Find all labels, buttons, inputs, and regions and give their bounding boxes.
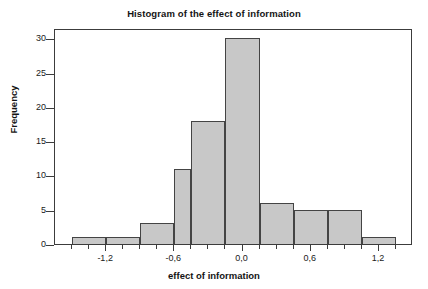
y-axis-tick-mark <box>46 74 54 75</box>
y-axis-tick-mark <box>46 211 54 212</box>
histogram-bar <box>362 237 396 244</box>
x-axis-title: effect of information <box>0 270 428 281</box>
y-axis-tick-label: 20 <box>20 102 46 112</box>
y-axis-tick-label: 30 <box>20 33 46 43</box>
x-axis-tick-mark <box>310 245 311 251</box>
x-axis-tick-label: 1,2 <box>358 253 398 263</box>
x-axis-tick-label: -0,6 <box>153 253 193 263</box>
y-axis-tick-mark <box>46 39 54 40</box>
y-axis-tick-label: 25 <box>20 68 46 78</box>
histogram-bar <box>294 210 328 244</box>
x-axis-minor-tick-mark <box>71 245 72 249</box>
y-axis-tick-mark <box>46 176 54 177</box>
x-axis-tick-label: -1,2 <box>85 253 125 263</box>
x-axis-minor-tick-mark <box>276 245 277 249</box>
histogram-bar <box>191 121 225 244</box>
y-axis-title: Frequency <box>8 62 19 158</box>
x-axis-minor-tick-mark <box>207 245 208 249</box>
y-axis-tick-label: 0 <box>20 239 46 249</box>
x-axis-tick-mark <box>378 245 379 251</box>
x-axis-minor-tick-mark <box>344 245 345 249</box>
histogram-bar <box>174 169 191 244</box>
y-axis-tick-mark <box>46 142 54 143</box>
x-axis-minor-tick-mark <box>88 245 89 249</box>
x-axis-tick-mark <box>105 245 106 251</box>
y-axis-tick-mark <box>46 245 54 246</box>
x-axis-minor-tick-mark <box>156 245 157 249</box>
y-axis-tick-mark <box>46 108 54 109</box>
y-axis-tick-label: 5 <box>20 205 46 215</box>
chart-title: Histogram of the effect of information <box>0 8 428 19</box>
x-axis-minor-tick-mark <box>224 245 225 249</box>
bars-layer <box>55 30 411 244</box>
x-axis-tick-label: 0,0 <box>222 253 262 263</box>
y-axis-tick-label: 15 <box>20 136 46 146</box>
x-axis-minor-tick-mark <box>122 245 123 249</box>
x-axis-tick-mark <box>173 245 174 251</box>
histogram-bar <box>72 237 106 244</box>
x-axis-minor-tick-mark <box>259 245 260 249</box>
x-axis-tick-mark <box>242 245 243 251</box>
histogram-bar <box>225 38 259 244</box>
y-axis-tick-label: 10 <box>20 170 46 180</box>
histogram-bar <box>106 237 140 244</box>
x-axis-tick-label: 0,6 <box>290 253 330 263</box>
plot-area <box>54 29 412 245</box>
x-axis-minor-tick-mark <box>395 245 396 249</box>
histogram-bar <box>328 210 362 244</box>
histogram-bar <box>140 223 174 244</box>
histogram-bar <box>260 203 294 244</box>
x-axis-minor-tick-mark <box>327 245 328 249</box>
histogram-chart: Histogram of the effect of information F… <box>0 0 428 289</box>
x-axis-minor-tick-mark <box>190 245 191 249</box>
x-axis-minor-tick-mark <box>293 245 294 249</box>
x-axis-minor-tick-mark <box>139 245 140 249</box>
x-axis-minor-tick-mark <box>361 245 362 249</box>
